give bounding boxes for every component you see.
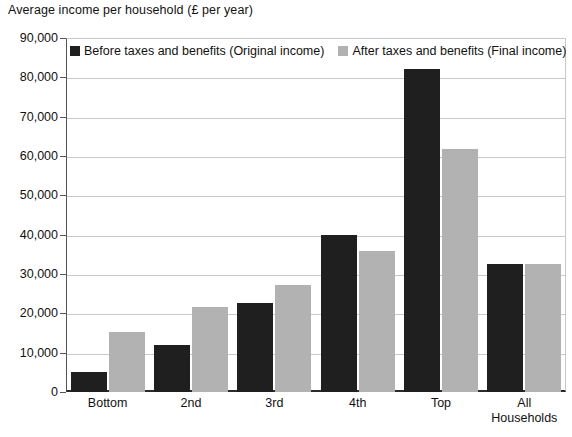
y-axis-labels: 010,00020,00030,00040,00050,00060,00070,… bbox=[0, 38, 58, 392]
bar-group bbox=[149, 38, 232, 392]
y-axis-tick-label: 20,000 bbox=[0, 306, 58, 320]
y-axis-tick-mark bbox=[60, 392, 66, 393]
x-axis-tick-label: Top bbox=[399, 396, 482, 411]
y-axis-tick-label: 50,000 bbox=[0, 188, 58, 202]
chart-title: Average income per household (£ per year… bbox=[8, 3, 253, 17]
bar-after[interactable] bbox=[192, 307, 228, 392]
y-axis-tick-label: 30,000 bbox=[0, 267, 58, 281]
legend-swatch-after-icon bbox=[338, 46, 348, 56]
bar-before[interactable] bbox=[321, 235, 357, 392]
y-axis-tick-label: 40,000 bbox=[0, 228, 58, 242]
bar-group bbox=[316, 38, 399, 392]
legend-swatch-before-icon bbox=[70, 46, 80, 56]
x-axis-tick-label: Bottom bbox=[66, 396, 149, 411]
bar-before[interactable] bbox=[404, 69, 440, 392]
x-axis-tick-label: AllHouseholds bbox=[483, 396, 566, 426]
y-axis-tick-label: 10,000 bbox=[0, 346, 58, 360]
legend-item[interactable]: Before taxes and benefits (Original inco… bbox=[70, 44, 324, 58]
bar-group bbox=[399, 38, 482, 392]
bar-after[interactable] bbox=[442, 149, 478, 392]
bar-before[interactable] bbox=[154, 345, 190, 392]
y-axis-tick-label: 70,000 bbox=[0, 110, 58, 124]
bar-after[interactable] bbox=[275, 285, 311, 392]
bar-group bbox=[483, 38, 566, 392]
y-axis-tick-label: 90,000 bbox=[0, 31, 58, 45]
bar-group bbox=[233, 38, 316, 392]
bar-after[interactable] bbox=[359, 251, 395, 392]
chart-legend: Before taxes and benefits (Original inco… bbox=[70, 44, 566, 58]
y-axis-tick-label: 80,000 bbox=[0, 70, 58, 84]
x-axis-tick-label: 3rd bbox=[233, 396, 316, 411]
y-axis-tick-label: 0 bbox=[0, 385, 58, 399]
bar-before[interactable] bbox=[487, 264, 523, 392]
x-axis-labels: Bottom2nd3rd4thTopAllHouseholds bbox=[66, 396, 566, 436]
bar-before[interactable] bbox=[71, 372, 107, 392]
y-axis-tick-label: 60,000 bbox=[0, 149, 58, 163]
bar-after[interactable] bbox=[525, 264, 561, 392]
bar-before[interactable] bbox=[237, 303, 273, 392]
x-axis-tick-label: 4th bbox=[316, 396, 399, 411]
bar-after[interactable] bbox=[109, 332, 145, 392]
bars-layer bbox=[66, 38, 566, 392]
legend-label: After taxes and benefits (Final income) bbox=[352, 44, 566, 58]
x-axis-tick-label: 2nd bbox=[149, 396, 232, 411]
bar-group bbox=[66, 38, 149, 392]
legend-item[interactable]: After taxes and benefits (Final income) bbox=[338, 44, 566, 58]
legend-label: Before taxes and benefits (Original inco… bbox=[84, 44, 324, 58]
